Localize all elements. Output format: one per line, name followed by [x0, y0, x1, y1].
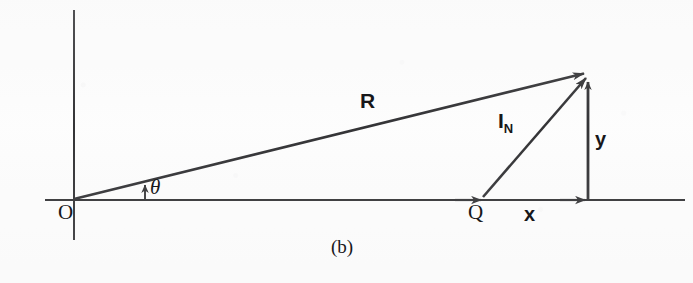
label-vector-x: x	[524, 204, 535, 224]
figure-caption: (b)	[331, 237, 353, 256]
label-point-O: O	[58, 202, 73, 223]
label-vector-IN: IN	[498, 110, 513, 135]
label-angle-theta: θ	[150, 177, 160, 198]
label-vector-IN-subscript: N	[504, 121, 513, 136]
label-point-Q: Q	[468, 202, 483, 223]
label-vector-R: R	[360, 90, 375, 111]
label-vector-y: y	[595, 129, 606, 149]
figure-b-container: O Q R IN x y θ (b)	[0, 0, 693, 283]
